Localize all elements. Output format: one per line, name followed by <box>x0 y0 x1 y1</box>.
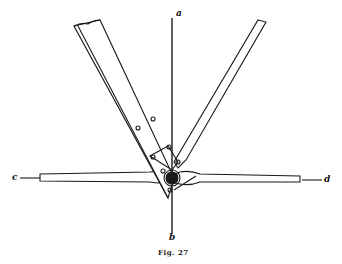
label-c: c <box>12 172 17 182</box>
label-b: b <box>169 232 175 242</box>
label-d: d <box>324 174 330 184</box>
label-a: a <box>176 8 182 18</box>
figure-caption: Fig. 27 <box>158 248 189 257</box>
figure-27: a b c d Fig. 27 <box>0 0 342 264</box>
mechanism-drawing <box>0 0 342 264</box>
central-pin <box>166 172 178 184</box>
slender-rod <box>174 20 266 168</box>
